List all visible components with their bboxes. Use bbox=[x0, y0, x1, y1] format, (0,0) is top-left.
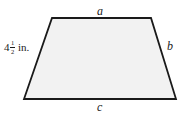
fraction-numerator: 1 bbox=[10, 40, 14, 47]
measurement-unit: in. bbox=[18, 42, 29, 53]
label-side-b: b bbox=[167, 40, 173, 52]
trapezoid-shape bbox=[0, 0, 186, 118]
measurement-whole-number: 4 bbox=[4, 42, 10, 53]
label-side-c: c bbox=[97, 101, 102, 113]
measurement-fraction: 1 2 bbox=[10, 40, 15, 56]
fraction-denominator: 2 bbox=[10, 49, 14, 56]
trapezoid-outline bbox=[24, 18, 176, 99]
label-side-a: a bbox=[97, 5, 103, 17]
trapezoid-figure: a b c 4 1 2 in. bbox=[0, 0, 186, 118]
label-left-measurement: 4 1 2 in. bbox=[4, 40, 29, 56]
